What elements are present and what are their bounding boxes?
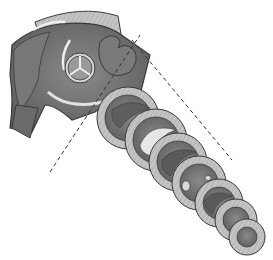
diagram-canvas <box>0 0 273 260</box>
valve-icon <box>65 53 95 83</box>
cross-section-7 <box>229 219 265 255</box>
cross-sections <box>97 87 265 255</box>
